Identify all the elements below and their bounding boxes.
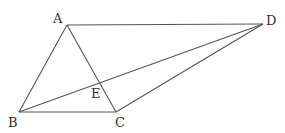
segment-AB [19, 25, 67, 112]
segment-AD [67, 24, 263, 25]
label-B: B [8, 115, 18, 130]
label-D: D [266, 13, 276, 28]
label-C: C [115, 115, 125, 130]
geometry-diagram: A B C D E [0, 0, 285, 133]
segments [19, 24, 263, 112]
label-E: E [91, 86, 101, 101]
label-A: A [52, 11, 63, 26]
segment-CD [116, 24, 263, 112]
segment-BD [19, 24, 263, 112]
